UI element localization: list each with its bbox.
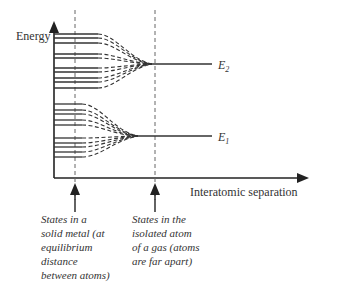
arrow-up-icon (70, 183, 80, 195)
gas-pointer-arrow (150, 183, 160, 212)
e1-label: E1 (217, 130, 229, 146)
lower-energy-band (54, 104, 212, 157)
y-axis (49, 21, 59, 178)
arrow-up-icon (150, 183, 160, 195)
x-axis-label: Interatomic separation (190, 185, 298, 199)
y-axis-label: Energy (16, 29, 50, 43)
x-axis-arrow-icon (297, 173, 309, 183)
upper-energy-band (54, 34, 212, 88)
e2-label: E2 (217, 58, 229, 74)
solid-metal-caption: States in a solid metal (at equilibrium … (41, 212, 110, 282)
isolated-atom-caption: States in the isolated atom of a gas (at… (132, 212, 200, 268)
y-axis-arrow-icon (49, 21, 59, 33)
solid-pointer-arrow (70, 183, 80, 212)
x-axis (54, 173, 309, 183)
